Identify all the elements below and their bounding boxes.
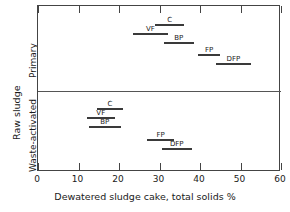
x-tick-label-40: 40 <box>193 174 204 184</box>
range-bar-label-waste-activated-dfp: DFP <box>170 140 184 148</box>
x-tick-label-0: 0 <box>34 174 40 184</box>
x-tick-bottom-30 <box>160 163 161 170</box>
x-tick-top-0 <box>38 6 39 13</box>
group-divider-line <box>38 91 281 92</box>
x-tick-top-60 <box>281 6 282 13</box>
x-tick-top-10 <box>79 6 80 13</box>
x-tick-label-10: 10 <box>72 174 83 184</box>
chart-container: Raw sludge Primary Waste-activated CVFBP… <box>0 0 290 212</box>
x-axis-title: Dewatered sludge cake, total solids % <box>0 191 290 202</box>
y-axis-outer-title: Raw sludge <box>11 85 22 140</box>
x-tick-label-60: 60 <box>274 174 285 184</box>
x-tick-label-20: 20 <box>112 174 123 184</box>
x-tick-bottom-40 <box>200 163 201 170</box>
range-bar-label-waste-activated-bp: BP <box>100 118 109 126</box>
range-bar-label-primary-bp: BP <box>174 34 183 42</box>
x-tick-bottom-20 <box>119 163 120 170</box>
x-tick-top-50 <box>241 6 242 13</box>
range-bar-primary-fp <box>198 54 220 56</box>
range-bar-label-primary-vf: VF <box>146 25 155 33</box>
x-tick-top-30 <box>160 6 161 13</box>
range-bar-label-waste-activated-fp: FP <box>156 131 164 139</box>
range-bar-primary-c <box>155 24 183 26</box>
range-bar-primary-bp <box>164 42 194 44</box>
range-bar-primary-vf <box>133 33 167 35</box>
range-bar-label-primary-dfp: DFP <box>227 55 241 63</box>
x-tick-bottom-60 <box>281 163 282 170</box>
x-tick-label-50: 50 <box>234 174 245 184</box>
x-tick-top-20 <box>119 6 120 13</box>
plot-area: CVFBPFPDFPCVFBPFPDFP <box>37 5 280 171</box>
x-tick-top-40 <box>200 6 201 13</box>
x-tick-bottom-50 <box>241 163 242 170</box>
x-tick-bottom-10 <box>79 163 80 170</box>
range-bar-waste-activated-bp <box>89 126 121 128</box>
range-bar-label-waste-activated-c: C <box>107 100 112 108</box>
range-bar-label-primary-fp: FP <box>205 46 213 54</box>
x-tick-label-30: 30 <box>153 174 164 184</box>
x-tick-bottom-0 <box>38 163 39 170</box>
range-bar-label-waste-activated-vf: VF <box>96 109 105 117</box>
range-bar-waste-activated-dfp <box>162 148 192 150</box>
range-bar-label-primary-c: C <box>167 16 172 24</box>
range-bar-primary-dfp <box>216 63 250 65</box>
